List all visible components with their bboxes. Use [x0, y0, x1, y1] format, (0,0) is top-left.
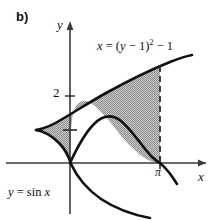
sine-eq-rhs: = sin — [14, 185, 45, 199]
y-tick-2-label: 2 — [53, 86, 60, 99]
x-axis-label: x — [198, 170, 204, 183]
y-axis-label: y — [57, 18, 63, 31]
figure-panel-b: b) y x 2 π x = (y − 1)2 − 1 y = sin x — [0, 0, 218, 220]
parabola-equation-label: x = (y − 1)2 − 1 — [97, 38, 173, 53]
y-axis-arrow — [67, 21, 74, 30]
sine-eq-var: x — [45, 185, 51, 199]
sine-equation-label: y = sin x — [8, 186, 50, 199]
panel-label: b) — [16, 10, 28, 23]
parabola-eq-sign: = ( — [103, 39, 120, 53]
x-tick-pi-label: π — [155, 166, 161, 178]
shaded-region — [36, 66, 160, 163]
parabola-eq-tail: − 1 — [154, 39, 174, 53]
x-axis-arrow — [198, 160, 206, 167]
parabola-eq-mid: − 1) — [126, 39, 150, 53]
